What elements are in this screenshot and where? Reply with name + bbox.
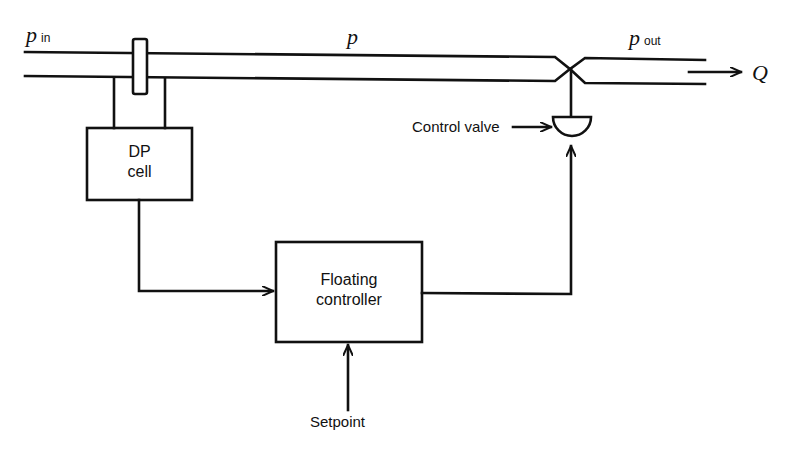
dp-cell-label: DP cell <box>87 142 192 182</box>
flow-symbol: Q <box>752 60 768 86</box>
inlet-pressure-label: pin <box>26 22 50 48</box>
pipe-bottom-wall <box>25 69 705 84</box>
inlet-pressure-symbol: p <box>26 22 37 47</box>
diagram-lines <box>0 0 789 458</box>
control-valve-label: Control valve <box>412 118 500 135</box>
controller-output-line <box>422 146 571 294</box>
inlet-pressure-subscript: in <box>41 31 50 45</box>
controller-label: Floating controller <box>276 270 422 310</box>
dp-cell-line2: cell <box>87 162 192 182</box>
dp-cell-line1: DP <box>87 142 192 162</box>
controller-line1: Floating <box>276 270 422 290</box>
line-pressure-symbol: p <box>347 24 358 50</box>
outlet-pressure-subscript: out <box>644 34 661 48</box>
orifice-plate <box>133 39 147 94</box>
dp-signal-line <box>139 200 273 291</box>
control-valve-actuator <box>553 117 591 136</box>
controller-line2: controller <box>276 290 422 310</box>
diagram-canvas: pin p pout Q DP cell Floating controller… <box>0 0 789 458</box>
outlet-pressure-symbol: p <box>629 25 640 50</box>
pipe-top-wall <box>25 52 705 69</box>
outlet-pressure-label: pout <box>629 25 661 51</box>
setpoint-label: Setpoint <box>310 413 365 430</box>
